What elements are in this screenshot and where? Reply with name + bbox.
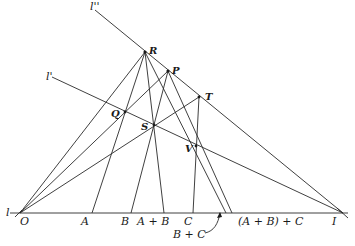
geometry-diagram: l'' l' l R P T Q S V O A B A + B C (A + … <box>0 0 355 246</box>
label-A-plus-B: A + B <box>136 215 169 228</box>
label-V: V <box>185 143 194 154</box>
label-C: C <box>184 215 193 228</box>
point-T <box>198 96 201 99</box>
label-B-plus-C: B + C <box>172 228 206 241</box>
label-R: R <box>148 45 157 56</box>
label-S: S <box>141 121 148 132</box>
arrow-B-plus-C <box>205 213 220 233</box>
label-T: T <box>205 91 214 102</box>
label-I: I <box>331 215 337 228</box>
point-R <box>143 50 146 53</box>
line-P-ABC <box>168 71 232 213</box>
label-l-double-prime: l'' <box>90 0 100 13</box>
line-O-P <box>20 71 168 213</box>
label-A: A <box>80 215 89 228</box>
label-l-prime: l' <box>46 70 53 83</box>
line-O-T <box>20 97 199 213</box>
label-O: O <box>20 215 29 228</box>
line-O-R <box>20 52 145 213</box>
point-S <box>153 124 156 127</box>
line-R-V <box>145 52 226 213</box>
line-l-prime <box>52 77 343 213</box>
label-P: P <box>171 65 180 76</box>
line-R-AplusB <box>145 52 164 213</box>
line-C-T <box>193 97 199 213</box>
point-Q <box>124 111 127 114</box>
point-V <box>195 145 198 148</box>
label-Q: Q <box>111 108 120 119</box>
line-l-double-prime <box>95 10 343 213</box>
point-P <box>166 69 169 72</box>
label-B: B <box>120 215 129 228</box>
label-A-plus-B-plus-C: (A + B) + C <box>238 215 304 228</box>
label-l: l <box>6 206 10 219</box>
